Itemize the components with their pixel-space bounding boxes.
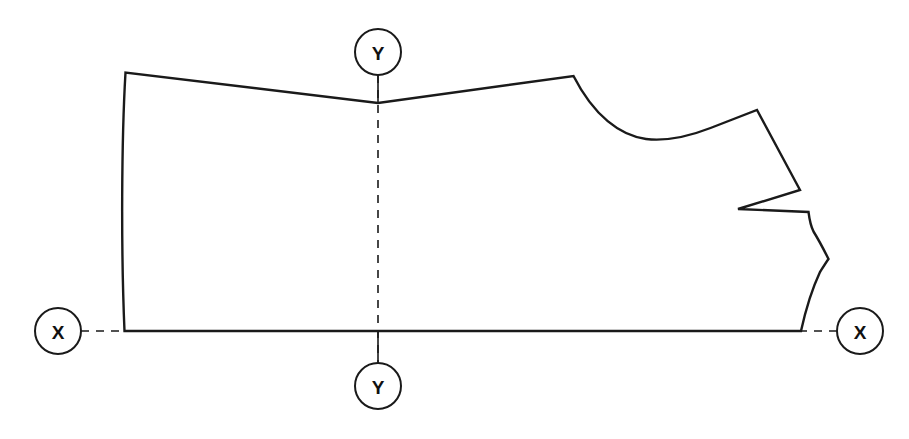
y-bottom-label: Y xyxy=(372,377,385,398)
marker-x-right[interactable]: X xyxy=(837,308,883,354)
y-top-label: Y xyxy=(372,43,385,64)
diagram-canvas: X X Y Y xyxy=(0,0,909,439)
x-right-label: X xyxy=(854,322,867,343)
diagram-background xyxy=(0,0,909,439)
pattern-diagram: X X Y Y xyxy=(0,0,909,439)
x-left-label: X xyxy=(52,322,65,343)
marker-y-top[interactable]: Y xyxy=(355,29,401,75)
marker-y-bottom[interactable]: Y xyxy=(355,363,401,409)
marker-x-left[interactable]: X xyxy=(35,308,81,354)
